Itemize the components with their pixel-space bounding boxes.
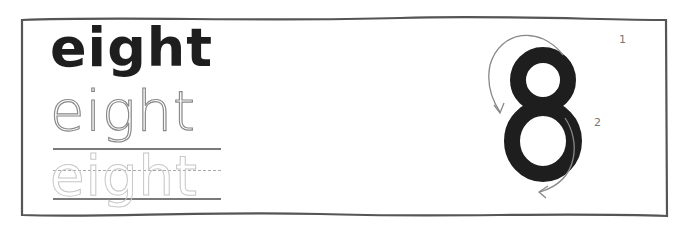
trace-word: eight (50, 78, 196, 143)
stroke-label-1: 1 (619, 33, 626, 46)
stroke-2-arrow-icon (540, 118, 574, 192)
stroke-1-arrow-icon (489, 35, 563, 112)
faint-trace-word: eight (50, 143, 198, 208)
model-word: eight (50, 16, 213, 79)
stroke-label-2: 2 (594, 116, 601, 129)
stroke-order-arrows (480, 20, 620, 200)
